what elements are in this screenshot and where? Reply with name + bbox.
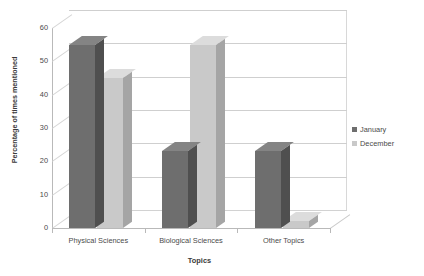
y-axis-tick-label: 30 [24,124,48,132]
y-axis-tick-label: 50 [24,57,48,65]
legend-swatch-icon [352,141,357,146]
legend-label: December [360,139,394,148]
bar-january-other-topics [255,151,281,228]
bar-side-face [281,145,290,228]
bar-front-face [255,151,281,228]
x-axis-line [52,228,330,229]
x-axis-category-labels: Physical SciencesBiological SciencesOthe… [52,236,347,250]
bar-front-face [69,45,95,228]
gridline [69,10,347,11]
bar-side-face [123,72,132,228]
bar-side-face [188,145,197,228]
bar-january-physical-sciences [69,45,95,228]
bar-january-biological-sciences [162,151,188,228]
x-axis-category-label: Other Topics [237,236,330,245]
y-axis-tick-label: 0 [24,224,48,232]
y-axis-title: Percentage of times mentioned [10,25,22,195]
bar-side-face [95,38,104,228]
x-axis-tick [237,228,238,233]
legend-item-january: January [352,122,422,136]
x-axis-tick [145,228,146,233]
x-axis-category-label: Biological Sciences [145,236,238,245]
x-axis-title: Topics [52,256,347,265]
y-axis-tick-label: 20 [24,157,48,165]
x-axis-tick [330,228,331,233]
bar-side-face [216,38,225,228]
y-axis-title-text: Percentage of times mentioned [10,25,19,195]
bar-front-face [162,151,188,228]
plot-area [52,10,347,232]
chart-legend: JanuaryDecember [352,122,422,150]
legend-item-december: December [352,136,422,150]
legend-swatch-icon [352,127,357,132]
y-axis-tick-label: 40 [24,91,48,99]
bar-chart: Percentage of times mentioned 0102030405… [0,0,424,276]
y-axis-tick-label: 60 [24,24,48,32]
x-axis-tick [52,228,53,233]
y-axis-tick-labels: 0102030405060 [22,0,48,276]
x-axis-category-label: Physical Sciences [52,236,145,245]
legend-label: January [360,125,386,134]
y-axis-tick-label: 10 [24,191,48,199]
floor-right-edge [330,214,350,229]
